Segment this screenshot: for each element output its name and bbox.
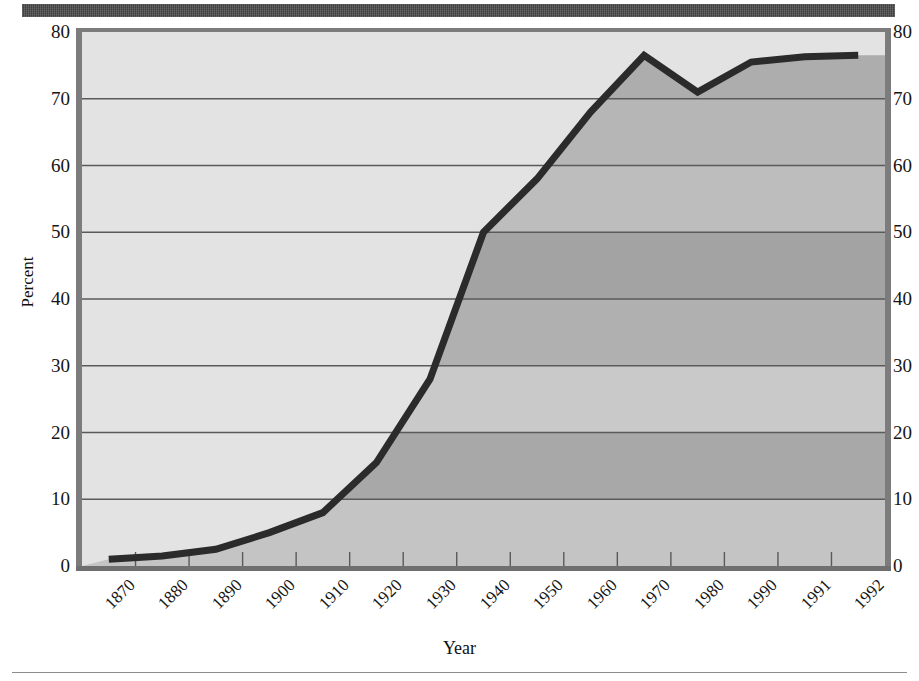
y-tick-label-right: 50 bbox=[893, 222, 919, 241]
y-tick-label-left: 70 bbox=[24, 89, 70, 108]
y-tick-label-left: 0 bbox=[24, 556, 70, 575]
y-tick-label-left: 10 bbox=[24, 489, 70, 508]
chart-title bbox=[22, 0, 895, 4]
plot-area bbox=[82, 32, 885, 566]
line-chart-svg bbox=[82, 32, 885, 566]
y-tick-label-left: 60 bbox=[24, 156, 70, 175]
y-tick-label-right: 40 bbox=[893, 289, 919, 308]
title-banner bbox=[22, 4, 895, 17]
x-axis-title: Year bbox=[0, 638, 919, 659]
y-tick-label-right: 0 bbox=[893, 556, 919, 575]
y-tick-label-right: 70 bbox=[893, 89, 919, 108]
figure: 01020304050607080 01020304050607080 1870… bbox=[0, 0, 919, 681]
plot-border-right bbox=[885, 28, 891, 570]
y-tick-label-right: 80 bbox=[893, 22, 919, 41]
plot-border-bottom bbox=[76, 566, 891, 571]
y-tick-label-right: 60 bbox=[893, 156, 919, 175]
y-tick-label-right: 30 bbox=[893, 356, 919, 375]
y-axis-title: Percent bbox=[18, 227, 38, 337]
y-tick-label-right: 20 bbox=[893, 423, 919, 442]
y-tick-label-left: 20 bbox=[24, 423, 70, 442]
y-tick-label-right: 10 bbox=[893, 489, 919, 508]
bottom-divider bbox=[12, 672, 907, 673]
y-tick-label-left: 80 bbox=[24, 22, 70, 41]
y-tick-label-left: 30 bbox=[24, 356, 70, 375]
